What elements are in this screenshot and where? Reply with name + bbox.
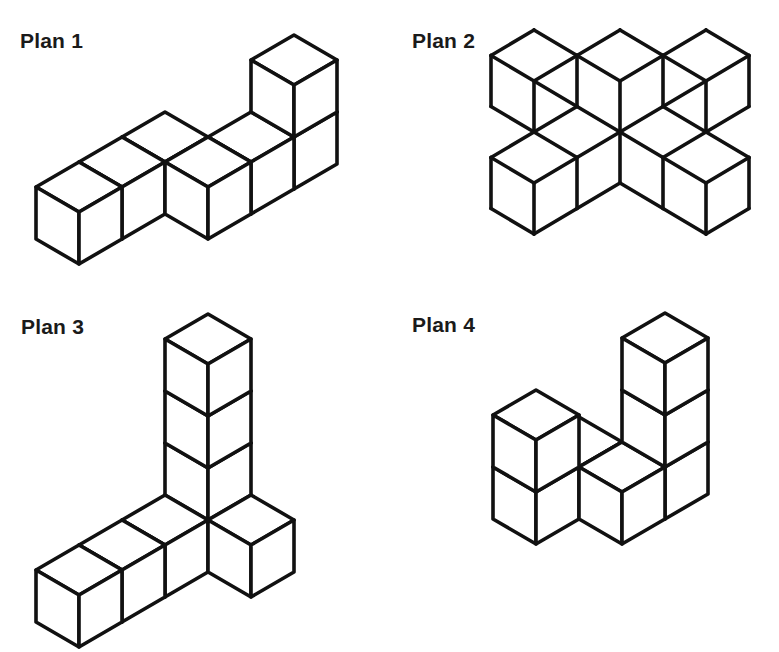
plans-figure: Plan 1 Plan 2 Plan 3 Plan 4 xyxy=(0,0,779,652)
plan-4-cube-drawing xyxy=(0,0,779,652)
